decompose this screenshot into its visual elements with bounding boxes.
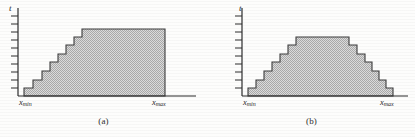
x-min-label-b: xmin <box>243 97 256 107</box>
y-axis-ticks-a <box>11 16 18 88</box>
figure-panel-b: t <box>208 0 415 137</box>
figure-caption-a: (a) <box>0 116 207 126</box>
x-min-sub-b: min <box>247 101 256 107</box>
x-max-label-a: xmax <box>152 97 166 107</box>
staircase-area-a <box>24 29 165 96</box>
figure-sheet: t <box>0 0 415 137</box>
figure-panel-a: t <box>0 0 207 137</box>
x-min-label-a: xmin <box>19 97 32 107</box>
y-axis-ticks-b <box>235 16 242 88</box>
staircase-area-b <box>248 37 393 96</box>
x-min-sub-a: min <box>23 101 32 107</box>
figure-caption-b: (b) <box>208 116 415 126</box>
x-max-label-b: xmax <box>380 97 394 107</box>
x-max-sub-b: max <box>384 101 394 107</box>
x-max-sub-a: max <box>156 101 166 107</box>
